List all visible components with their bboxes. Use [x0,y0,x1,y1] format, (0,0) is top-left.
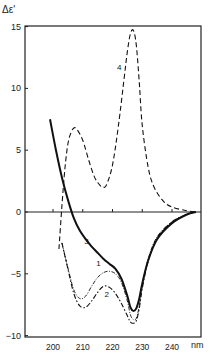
y-tick-label: −10 [6,331,21,341]
curve-label-4: 4 [117,63,122,72]
y-tick-label: 0 [16,207,21,217]
y-tick-label: 10 [11,83,21,93]
y-tick-label: 5 [16,145,21,155]
cd-spectrum-chart: −10−50510152002102202302401234 [0,0,213,358]
curve-4 [59,30,196,249]
x-tick-label: 200 [46,342,60,352]
x-axis-unit-label: nm [191,340,204,350]
x-tick-label: 210 [76,342,90,352]
x-tick-label: 230 [135,342,149,352]
y-axis-label: Δε' [2,4,15,15]
curve-label-3: 3 [84,237,89,246]
y-tick-label: 15 [11,22,21,32]
y-tick-label: −5 [11,269,21,279]
curve-label-1: 1 [96,259,101,268]
x-tick-label: 240 [165,342,179,352]
curve-label-2: 2 [104,290,109,299]
plot-frame [25,26,201,337]
x-tick-label: 220 [105,342,119,352]
